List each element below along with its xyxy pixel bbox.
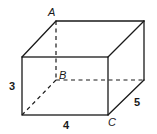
front-face	[22, 57, 108, 115]
vertex-label-b: B	[59, 69, 66, 81]
vertex-label-c: C	[108, 116, 116, 128]
edge-top-left-diagonal	[22, 21, 56, 57]
dimension-label-length: 4	[63, 119, 70, 131]
hidden-edge-bottom-left-diagonal	[22, 80, 56, 115]
dimension-label-height: 3	[9, 80, 15, 92]
rectangular-prism-diagram: A B C 3 4 5	[0, 0, 157, 134]
edge-top-right-diagonal	[108, 21, 144, 57]
vertex-label-a: A	[47, 6, 55, 18]
dimension-label-depth: 5	[134, 96, 140, 108]
